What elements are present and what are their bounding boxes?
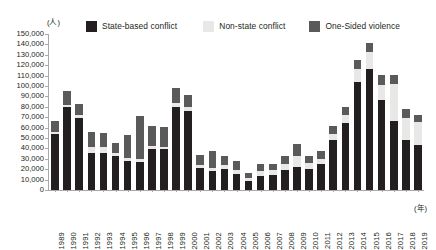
bar-1999 (172, 88, 180, 190)
y-axis-tick-mark (45, 128, 48, 129)
bar-segment-state-based-conflict (196, 168, 204, 190)
bar-segment-one-sided-violence (281, 156, 289, 164)
x-axis-tick-label: 1989 (58, 232, 66, 250)
bar-segment-state-based-conflict (342, 123, 350, 190)
y-axis-tick-mark (45, 117, 48, 118)
x-axis-tick-label: 2007 (276, 232, 284, 250)
bar-2014 (354, 60, 362, 190)
bar-segment-non-state-conflict (390, 84, 398, 121)
bar-segment-non-state-conflict (402, 118, 410, 140)
x-axis-tick-label: 1993 (106, 232, 114, 250)
y-axis-tick-mark (45, 86, 48, 87)
bar-2001 (196, 155, 204, 190)
x-axis-tick-label: 1999 (179, 232, 187, 250)
bar-segment-non-state-conflict (366, 52, 374, 70)
bar-segment-state-based-conflict (281, 170, 289, 190)
bar-segment-one-sided-violence (75, 104, 83, 115)
bar-segment-state-based-conflict (293, 167, 301, 190)
bar-segment-state-based-conflict (378, 100, 386, 190)
bar-segment-one-sided-violence (233, 161, 241, 170)
bar-2000 (184, 95, 192, 190)
x-axis-tick-mark (357, 190, 358, 192)
bar-1989 (51, 121, 59, 190)
x-axis-tick-label: 2000 (191, 232, 199, 250)
x-axis-tick-label: 1998 (167, 232, 175, 250)
bar-segment-one-sided-violence (378, 75, 386, 85)
bar-segment-one-sided-violence (390, 75, 398, 84)
legend-swatch-one-sided-violence (309, 21, 320, 32)
x-axis-tick-mark (140, 190, 141, 192)
x-axis-tick-label: 1996 (143, 232, 151, 250)
y-axis-tick-mark (45, 65, 48, 66)
x-axis-tick-label: 2019 (421, 232, 429, 250)
y-axis-tick-label: 100,000 (17, 82, 44, 90)
x-axis-tick-label: 1992 (94, 232, 102, 250)
y-axis-tick-label: 60,000 (21, 124, 44, 132)
x-axis-tick-mark (67, 190, 68, 192)
bar-1996 (136, 116, 144, 190)
bar-segment-state-based-conflict (305, 169, 313, 190)
x-axis-tick-mark (273, 190, 274, 192)
y-axis-tick-mark (45, 138, 48, 139)
bar-2008 (281, 156, 289, 190)
bar-segment-non-state-conflict (378, 85, 386, 100)
x-axis-tick-mark (333, 190, 334, 192)
bar-segment-one-sided-violence (184, 95, 192, 106)
bar-segment-state-based-conflict (317, 164, 325, 190)
bar-2009 (293, 144, 301, 190)
bar-2015 (366, 43, 374, 190)
bar-segment-non-state-conflict (414, 122, 422, 145)
conflict-deaths-bar-chart: State-based conflict Non-state conflict … (0, 0, 436, 250)
legend-label-non-state-conflict: Non-state conflict (219, 21, 285, 31)
bar-2003 (221, 156, 229, 190)
x-axis-tick-mark (321, 190, 322, 192)
x-axis-tick-mark (79, 190, 80, 192)
bar-segment-state-based-conflict (390, 121, 398, 190)
x-axis-tick-mark (188, 190, 189, 192)
bar-1995 (124, 135, 132, 190)
bar-segment-state-based-conflict (233, 174, 241, 190)
y-axis-tick-label: 10,000 (21, 176, 44, 184)
bar-2013 (342, 107, 350, 190)
bar-segment-one-sided-violence (305, 156, 313, 163)
x-axis-tick-label: 2018 (409, 232, 417, 250)
y-axis-tick-mark (45, 44, 48, 45)
y-axis-tick-mark (45, 76, 48, 77)
bar-segment-one-sided-violence (124, 135, 132, 158)
bar-2007 (269, 164, 277, 190)
bar-segment-state-based-conflict (402, 140, 410, 190)
bar-segment-one-sided-violence (209, 151, 217, 169)
bar-segment-state-based-conflict (209, 171, 217, 190)
bar-segment-one-sided-violence (257, 164, 265, 171)
bar-segment-state-based-conflict (172, 107, 180, 190)
bar-2005 (245, 173, 253, 190)
bar-segment-state-based-conflict (51, 134, 59, 190)
legend-swatch-non-state-conflict (203, 21, 214, 32)
bar-segment-one-sided-violence (100, 133, 108, 148)
bar-segment-state-based-conflict (148, 149, 156, 190)
x-axis-tick-label: 1997 (155, 232, 163, 250)
bar-2019 (414, 115, 422, 190)
bar-segment-state-based-conflict (257, 176, 265, 190)
x-axis-tick-mark (249, 190, 250, 192)
y-axis-tick-label: 140,000 (17, 40, 44, 48)
x-axis-tick-mark (370, 190, 371, 192)
bar-segment-one-sided-violence (88, 132, 96, 148)
bar-segment-state-based-conflict (329, 140, 337, 190)
legend-label-one-sided-violence: One-Sided violence (325, 21, 400, 31)
bar-segment-one-sided-violence (354, 60, 362, 69)
x-axis-tick-mark (91, 190, 92, 192)
x-axis-tick-mark (212, 190, 213, 192)
bar-segment-state-based-conflict (184, 111, 192, 190)
bar-2002 (209, 150, 217, 190)
bar-1992 (88, 132, 96, 190)
bar-1994 (112, 143, 120, 190)
x-axis-labels: 1989199019911992199319941995199619971998… (49, 192, 424, 236)
plot-area: 010,00020,00030,00040,00050,00060,00070,… (48, 34, 424, 190)
x-axis-tick-label: 1991 (82, 232, 90, 250)
y-axis-unit-label: (人) (36, 18, 60, 27)
bar-1993 (100, 133, 108, 190)
y-axis-tick-mark (45, 107, 48, 108)
x-axis-tick-mark (382, 190, 383, 192)
x-axis-tick-label: 1994 (119, 232, 127, 250)
